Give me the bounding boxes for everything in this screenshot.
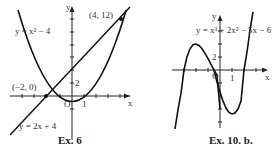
- ex6-point1-label: (−2, 0): [12, 82, 37, 92]
- ex6-y-label: y: [66, 2, 71, 12]
- ex10b-y-arrow-icon: [218, 15, 223, 21]
- ex10b-tick-y-label: 2: [212, 52, 217, 62]
- ex6-origin-label: O: [64, 99, 71, 109]
- ex10b-graph: y x O 1 2 y = x³ + 2x² − 5x − 6 Ex. 10. …: [172, 11, 272, 146]
- ex6-graph: y x O 1 2 y = x² − 4 y = 2x + 4 (−2, 0) …: [10, 2, 133, 146]
- ex6-point-4-12: [119, 17, 123, 21]
- ex10b-x-label: x: [265, 72, 270, 82]
- ex10b-origin-label: O: [212, 71, 219, 81]
- ex10b-y-label: y: [212, 11, 217, 21]
- ex6-caption: Ex. 6: [58, 134, 82, 146]
- ex6-point-neg2-0: [44, 94, 48, 98]
- ex6-parabola-label: y = x² − 4: [15, 26, 51, 36]
- figure-canvas: y x O 1 2 y = x² − 4 y = 2x + 4 (−2, 0) …: [0, 0, 273, 148]
- ex10b-curve-label: y = x³ + 2x² − 5x − 6: [196, 25, 272, 35]
- ex6-line-label: y = 2x + 4: [19, 121, 57, 131]
- ex6-tick-y-label: 2: [75, 78, 80, 88]
- ex6-tick-x-label: 1: [82, 99, 87, 109]
- ex10b-caption: Ex. 10. b.: [209, 134, 253, 146]
- ex10b-tick-x-label: 1: [230, 73, 235, 83]
- ex6-x-label: x: [128, 98, 133, 108]
- ex6-point2-label: (4, 12): [89, 10, 113, 20]
